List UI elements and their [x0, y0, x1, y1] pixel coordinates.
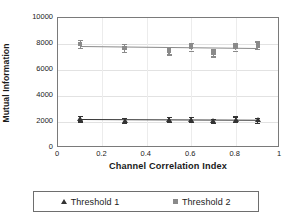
y-axis-tick-2000: 2000 [36, 117, 53, 125]
gridline-vertical [147, 18, 148, 146]
x-axis-title: Channel Correlation Index [57, 161, 279, 171]
y-axis-title: Mutual Information [0, 36, 13, 130]
data-point-marker [78, 42, 83, 47]
legend-item-1[interactable]: Threshold 1 [34, 197, 146, 207]
error-bar-cap [122, 123, 127, 124]
data-point-marker [122, 46, 127, 51]
x-axis-tick-0-4: 0.4 [132, 150, 160, 158]
x-axis-tick-0-2: 0.2 [87, 150, 115, 158]
x-axis-tick-1: 1 [265, 150, 293, 158]
legend-label: Threshold 1 [71, 197, 120, 207]
data-point-marker [210, 118, 216, 123]
error-bar-cap [255, 49, 260, 50]
data-point-marker [189, 44, 194, 49]
error-bar-cap [255, 123, 260, 124]
data-point-marker [255, 117, 261, 122]
data-point-marker [167, 48, 172, 53]
data-point-marker [233, 44, 238, 49]
error-bar-cap [233, 51, 238, 52]
data-point-marker [233, 117, 239, 122]
error-bar-cap [122, 52, 127, 53]
error-bar-cap [167, 54, 172, 55]
data-point-marker [166, 117, 172, 122]
error-bar-cap [78, 121, 83, 122]
error-bar-cap [189, 122, 194, 123]
gridline-vertical [102, 18, 103, 146]
y-axis-tick-10000: 10000 [32, 13, 53, 21]
legend-triangle-icon [61, 199, 67, 204]
gridline-horizontal [58, 70, 278, 71]
gridline-vertical [191, 18, 192, 146]
data-point-marker [122, 118, 128, 123]
data-point-marker [77, 116, 83, 121]
error-bar-cap [78, 48, 83, 49]
data-point-marker [256, 43, 261, 48]
chart-legend: Threshold 1Threshold 2 [33, 191, 259, 212]
legend-square-icon [173, 199, 177, 203]
gridline-horizontal [58, 44, 278, 45]
x-axis-tick-0-6: 0.6 [176, 150, 204, 158]
chart-figure: 0200040006000800010000 Mutual Informatio… [0, 0, 294, 219]
y-axis-tick-8000: 8000 [36, 39, 53, 47]
gridline-vertical [236, 18, 237, 146]
error-bar-cap [189, 51, 194, 52]
legend-label: Threshold 2 [182, 197, 231, 207]
error-bar-cap [233, 122, 238, 123]
legend-item-2[interactable]: Threshold 2 [146, 197, 258, 207]
data-point-marker [211, 50, 216, 55]
y-axis-tick-4000: 4000 [36, 91, 53, 99]
plot-area [57, 17, 279, 147]
y-axis-title-text: Mutual Information [1, 43, 11, 122]
error-bar-cap [211, 56, 216, 57]
error-bar-cap [167, 122, 172, 123]
y-axis-tick-6000: 6000 [36, 65, 53, 73]
x-axis-tick-0-8: 0.8 [221, 150, 249, 158]
data-point-marker [188, 117, 194, 122]
gridline-horizontal [58, 96, 278, 97]
error-bar-cap [211, 123, 216, 124]
x-axis-tick-0: 0 [43, 150, 71, 158]
